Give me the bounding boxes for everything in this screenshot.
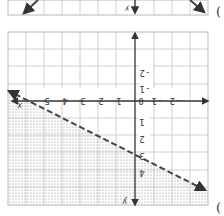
y-tick-4: 4 — [139, 168, 144, 178]
y-axis-label: y — [122, 197, 128, 206]
worksheet-canvas: y 5 4 3 2 — [0, 0, 224, 216]
x-tick-0: 0 — [138, 96, 143, 106]
x-tick-4: 4 — [62, 96, 67, 106]
answer-marker-main: ( — [216, 200, 221, 215]
y-tick-1: 1 — [139, 117, 144, 127]
x-tick-neg1: -1 — [152, 96, 163, 106]
y-axis-label: y — [124, 5, 130, 13]
shaded-region — [8, 91, 208, 205]
main-graph: 5 4 3 2 1 0 -1 -2 -1 -2 1 2 3 4 x y — [8, 32, 208, 206]
y-tick-neg2: -2 — [140, 68, 151, 78]
x-tick-neg2: -2 — [170, 96, 181, 106]
x-tick-3: 3 — [80, 96, 85, 106]
x-axis-label: x — [17, 101, 23, 110]
x-tick-1: 1 — [116, 96, 121, 106]
answer-marker-top: ( — [216, 4, 221, 19]
y-tick-2: 2 — [139, 134, 144, 144]
x-tick-5: 5 — [44, 96, 49, 106]
top-graph: y — [8, 0, 208, 15]
x-tick-2: 2 — [98, 96, 103, 106]
y-tick-3: 3 — [139, 151, 144, 161]
y-tick-neg1: -1 — [140, 84, 151, 94]
